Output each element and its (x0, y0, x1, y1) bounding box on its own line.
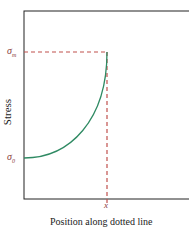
sigma-m-label: σm (7, 45, 16, 58)
stress-curve (24, 52, 107, 158)
stress-plot (0, 0, 189, 234)
y-axis-label: Stress (1, 99, 13, 125)
x-position-marker: x (104, 200, 108, 210)
sigma-0-label: σ0 (7, 151, 15, 164)
x-axis-label: Position along dotted line (50, 216, 153, 227)
